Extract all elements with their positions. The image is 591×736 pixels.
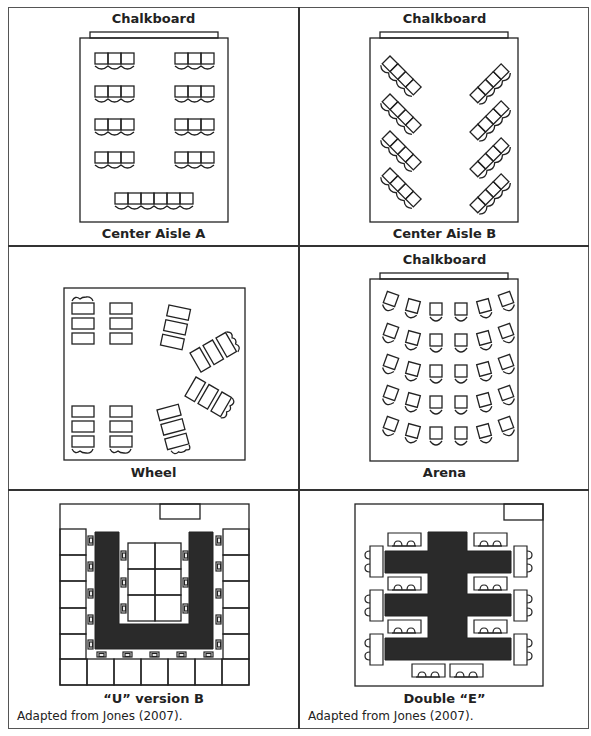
desk-group-left-2 (95, 86, 134, 102)
bottom-cabinets (60, 659, 249, 685)
desk-group-left-3 (379, 131, 421, 173)
seats-bottom (412, 664, 483, 677)
double-e-table (385, 532, 511, 660)
chalkboard-icon (380, 32, 508, 38)
desk-group-right-1 (470, 64, 512, 106)
desk-stack-spoke-3 (185, 377, 236, 420)
desk-group-right-2 (470, 101, 512, 143)
u-shaped-table (95, 532, 213, 649)
panel-double-e: Double “E” Adapted from Jones (2007). (300, 491, 589, 729)
door-box (504, 504, 543, 520)
u-chairs-bottom (97, 652, 213, 657)
seat-row-4 (381, 385, 515, 414)
source-credit: Adapted from Jones (2007). (308, 709, 474, 723)
desk-stack-top-left-1 (72, 297, 94, 344)
desk-group-left-4 (379, 168, 421, 210)
seat-row-3 (381, 354, 515, 383)
center-aisle-b-diagram (300, 8, 589, 245)
panel-arena: Chalkboard (300, 247, 589, 489)
center-aisle-a-diagram (9, 8, 298, 245)
desk-stack-spoke-1 (160, 305, 190, 350)
layout-caption: Center Aisle A (9, 226, 298, 241)
source-credit: Adapted from Jones (2007). (17, 709, 183, 723)
desk-stack-top-left-2 (110, 303, 132, 344)
layout-caption: Arena (300, 465, 589, 480)
desk-group-right-1 (175, 53, 214, 69)
desk-group-right-3 (175, 119, 214, 135)
desk-stack-bottom-left-2 (110, 406, 132, 453)
desk-group-right-3 (470, 138, 512, 180)
arena-seats (381, 291, 515, 445)
layout-caption: Double “E” (300, 691, 589, 706)
seats-top-right (474, 533, 507, 633)
u-chairs-right (216, 536, 221, 649)
chalkboard-icon (90, 32, 218, 38)
u-chairs-inner-right (183, 551, 188, 613)
panel-u-version-b: “U” version B Adapted from Jones (2007). (9, 491, 298, 729)
u-chairs-inner-left (121, 551, 126, 613)
desk-group-left-1 (379, 56, 421, 98)
desk-group-left-1 (95, 53, 134, 69)
desk-group-left-3 (95, 119, 134, 135)
panel-wheel: Wheel (9, 247, 298, 489)
seat-row-2 (381, 323, 515, 352)
desk-group-left-2 (379, 94, 421, 136)
seats-top-left (388, 533, 421, 633)
desk-group-right-4 (470, 174, 512, 216)
panel-center-aisle-b: Chalkboard Center Aisle B (300, 8, 589, 245)
desk-stack-bottom-left-1 (72, 406, 94, 453)
wheel-diagram (9, 247, 298, 489)
layout-caption: Center Aisle B (300, 226, 589, 241)
chalkboard-icon (380, 273, 508, 279)
desk-group-right-2 (175, 86, 214, 102)
right-cabinets (223, 529, 249, 659)
layout-caption: “U” version B (9, 691, 298, 706)
panel-center-aisle-a: Chalkboard (9, 8, 298, 245)
seats-left-side (365, 546, 383, 665)
arena-diagram (300, 247, 589, 489)
seats-right-side (514, 546, 532, 665)
desk-group-left-4 (95, 152, 134, 168)
desk-stack-spoke-2 (190, 330, 241, 373)
door-box (160, 504, 200, 519)
desk-group-right-4 (175, 152, 214, 168)
layout-caption: Wheel (9, 465, 298, 480)
center-tables (128, 543, 181, 621)
left-cabinets (60, 529, 86, 659)
desk-stack-spoke-4 (157, 404, 191, 456)
seat-row-5 (381, 416, 515, 445)
desk-group-back (115, 193, 193, 209)
seat-row-1 (381, 291, 515, 321)
u-chairs-left (88, 536, 93, 649)
